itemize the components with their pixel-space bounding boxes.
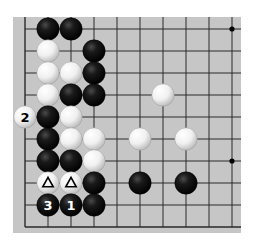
white-stone [60,128,82,150]
black-stone [60,18,82,40]
black-stone [37,150,59,172]
black-stone [83,62,105,84]
white-stone: 2 [14,106,36,128]
move-number: 2 [20,110,29,125]
black-stone [129,172,151,194]
black-stone: 1 [60,194,82,216]
white-stone [175,128,197,150]
black-stone [60,150,82,172]
star-point [229,158,234,163]
move-number: 1 [66,198,75,213]
white-stone [37,172,59,194]
black-stone [83,172,105,194]
black-stone [83,194,105,216]
black-stone [37,128,59,150]
go-board: 231 [0,0,255,250]
white-stone [152,84,174,106]
black-stone [83,84,105,106]
white-stone [37,84,59,106]
go-diagram: 231 [0,0,255,250]
black-stone [60,84,82,106]
black-stone: 3 [37,194,59,216]
white-stone [129,128,151,150]
move-number: 3 [43,198,52,213]
black-stone [175,172,197,194]
star-point [229,26,234,31]
black-stone [83,40,105,62]
white-stone [37,40,59,62]
white-stone [37,62,59,84]
white-stone [83,150,105,172]
white-stone [60,62,82,84]
white-stone [60,106,82,128]
white-stone [60,172,82,194]
black-stone [37,18,59,40]
white-stone [83,128,105,150]
black-stone [37,106,59,128]
